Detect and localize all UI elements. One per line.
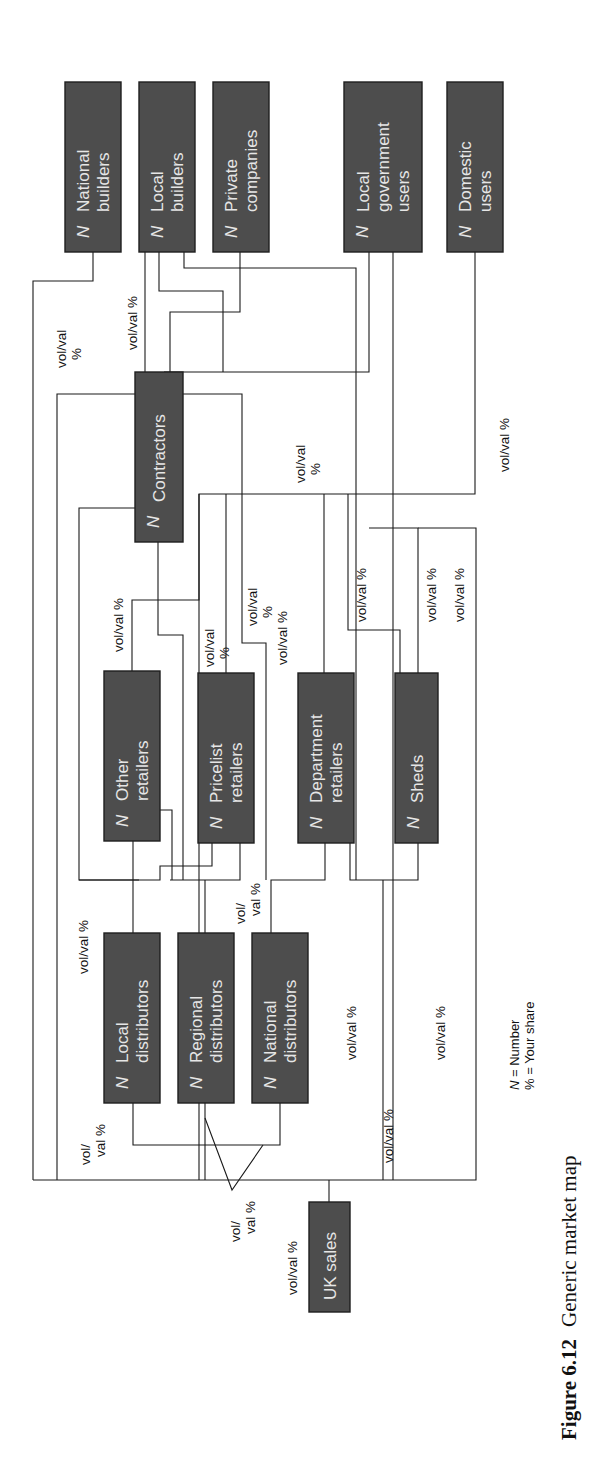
flow-label-text: vol/val <box>54 330 69 368</box>
n-symbol: N <box>207 816 226 829</box>
node-label: distributors <box>281 980 300 1063</box>
flow-label-local-gov-share: vol/val% <box>293 445 323 483</box>
node-sheds: NSheds <box>395 673 438 843</box>
node-label: Department <box>307 714 326 803</box>
connector-line <box>133 1103 280 1145</box>
node-local-distributors: NLocaldistributors <box>104 933 160 1103</box>
flow-label-text: % <box>69 348 84 360</box>
node-label: builders <box>94 152 113 212</box>
flow-label-text: vol/val % <box>285 1241 300 1295</box>
flow-label-text: vol/val % <box>424 568 439 622</box>
node-label: Regional <box>187 996 206 1063</box>
node-label: Local <box>113 1022 132 1063</box>
node-label: companies <box>242 130 261 212</box>
node-label: Private <box>222 159 241 212</box>
flow-label-domestic-share: vol/val % <box>497 418 512 472</box>
n-symbol: N <box>261 1076 280 1089</box>
caption-title: Generic market map <box>557 1155 581 1326</box>
node-label: retailers <box>227 743 246 803</box>
connector-line <box>183 394 242 494</box>
node-label: Local <box>148 171 167 212</box>
node-other-retailers: NOtherretailers <box>104 671 160 841</box>
flow-label-text: vol/val % <box>497 418 512 472</box>
node-label: retailers <box>133 741 152 801</box>
n-symbol: N <box>113 1076 132 1089</box>
node-label: National <box>261 1001 280 1063</box>
flow-label-text: vol/val % <box>76 920 91 974</box>
node-label: users <box>394 170 413 212</box>
connector-line <box>350 843 418 880</box>
flow-label-text: vol/val % <box>125 296 140 350</box>
node-label: Pricelist <box>207 743 226 803</box>
flow-label-text: val % <box>243 1201 258 1234</box>
node-department-retailers: NDepartmentretailers <box>298 673 354 843</box>
flow-label-text: val % <box>248 883 263 916</box>
node-label: distributors <box>133 980 152 1063</box>
flow-label-local-left-share: vol/val % <box>78 1124 108 1165</box>
n-symbol: N <box>307 816 326 829</box>
flow-label-local-distributors-share: vol/val % <box>76 920 91 974</box>
svg-text:N = Number: N = Number <box>507 1019 522 1090</box>
flow-label-contractor-mid-share: vol/val% <box>245 588 275 626</box>
flow-label-sheds-bottom-share: vol/val % <box>433 1006 448 1060</box>
legend-n-meaning: = Number <box>507 1019 522 1081</box>
caption-number: Figure 6.12 <box>557 1339 581 1440</box>
flow-label-uk-sales-share: vol/val % <box>285 1241 300 1295</box>
flow-label-text: % <box>217 647 232 659</box>
node-label: retailers <box>327 743 346 803</box>
flow-label-text: vol/val <box>293 445 308 483</box>
flow-label-text: % <box>308 463 323 475</box>
node-boxes: NNationalbuildersNLocalbuildersNPrivatec… <box>65 82 503 1312</box>
node-label: Contractors <box>150 414 169 502</box>
flow-label-department-bottom-share: vol/val % <box>344 1006 359 1060</box>
flow-label-text: vol/ <box>233 903 248 924</box>
n-symbol: N <box>404 816 423 829</box>
flow-label-text: vol/ <box>228 1221 243 1242</box>
node-label: National <box>74 150 93 212</box>
market-map-diagram: NNationalbuildersNLocalbuildersNPrivatec… <box>0 0 607 1459</box>
node-label: UK sales <box>321 1232 340 1300</box>
flow-label-text: vol/val <box>202 629 217 667</box>
flow-label-sheds-share-c: vol/val % <box>452 568 467 622</box>
flow-label-sheds-share-a: vol/val % <box>354 568 369 622</box>
n-symbol: N <box>113 814 132 827</box>
node-label: government <box>374 122 393 212</box>
node-pricelist-retailers: NPricelistretailers <box>198 673 254 843</box>
n-symbol: N <box>353 225 372 238</box>
flow-label-local-builders-share: vol/val % <box>125 296 140 350</box>
node-local-builders: NLocalbuilders <box>139 82 195 252</box>
node-domestic-users: NDomesticusers <box>447 82 503 252</box>
n-symbol: N <box>187 1076 206 1089</box>
connector-line <box>160 810 172 880</box>
n-symbol: N <box>74 225 93 238</box>
flow-label-text: val % <box>93 1124 108 1157</box>
flow-label-distributors-triangle-share: vol/val % <box>228 1201 258 1242</box>
node-contractors: NContractors <box>135 372 183 542</box>
flow-label-direct-share: vol/val % <box>381 1109 396 1163</box>
node-label: users <box>476 170 495 212</box>
node-regional-distributors: NRegionaldistributors <box>178 933 234 1103</box>
flow-label-text: vol/val % <box>275 611 290 665</box>
flow-label-text: vol/val <box>245 588 260 626</box>
node-label: distributors <box>207 980 226 1063</box>
flow-label-national-distributors-share: vol/val % <box>233 883 263 924</box>
connector-line <box>170 843 240 880</box>
node-label: Sheds <box>408 755 427 803</box>
n-symbol: N <box>148 225 167 238</box>
connector-line <box>271 843 325 933</box>
flow-label-text: % <box>260 606 275 618</box>
svg-text:Figure 6.12Generic market map: Figure 6.12Generic market map <box>557 1155 581 1440</box>
n-symbol: N <box>456 225 475 238</box>
flow-label-text: vol/val % <box>344 1006 359 1060</box>
flow-label-national-builders-share: vol/val% <box>54 330 84 368</box>
flow-label-other-retailers-share: vol/val % <box>111 598 126 652</box>
legend: N = Number % = Your share <box>507 1001 537 1090</box>
connector-line <box>158 542 183 880</box>
flow-label-text: vol/val % <box>381 1109 396 1163</box>
flow-label-pricelist-share: vol/val% <box>202 629 232 667</box>
node-uk-sales: UK sales <box>309 1202 350 1312</box>
n-symbol: N <box>144 515 163 528</box>
node-label: builders <box>168 152 187 212</box>
flow-label-text: vol/val % <box>433 1006 448 1060</box>
connector-line <box>170 252 240 372</box>
